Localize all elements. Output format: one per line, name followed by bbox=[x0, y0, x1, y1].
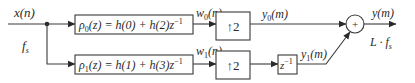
y0-label: y0(m) bbox=[261, 7, 288, 23]
filter-p0-label: ρ0(z) = h(0) + h(2)z−1 bbox=[78, 17, 183, 34]
polyphase-interpolator-diagram: x(n) fs ρ0(z) = h(0) + h(2)z−1 ρ1(z) = h… bbox=[0, 0, 415, 83]
output-rate-label: L · fs bbox=[369, 35, 392, 51]
filter-p1-label: ρ1(z) = h(1) + h(3)z−1 bbox=[78, 57, 183, 74]
branch-1-input-line bbox=[47, 24, 75, 64]
y1-label: y1(m) bbox=[300, 47, 327, 63]
adder-symbol: + bbox=[352, 18, 358, 30]
output-signal-label: y(m) bbox=[371, 6, 394, 20]
upsampler-1-label: ↑2 bbox=[227, 58, 240, 73]
upsampler-0-label: ↑2 bbox=[227, 19, 240, 34]
input-rate-label: fs bbox=[22, 38, 29, 55]
input-signal-label: x(n) bbox=[13, 5, 35, 20]
